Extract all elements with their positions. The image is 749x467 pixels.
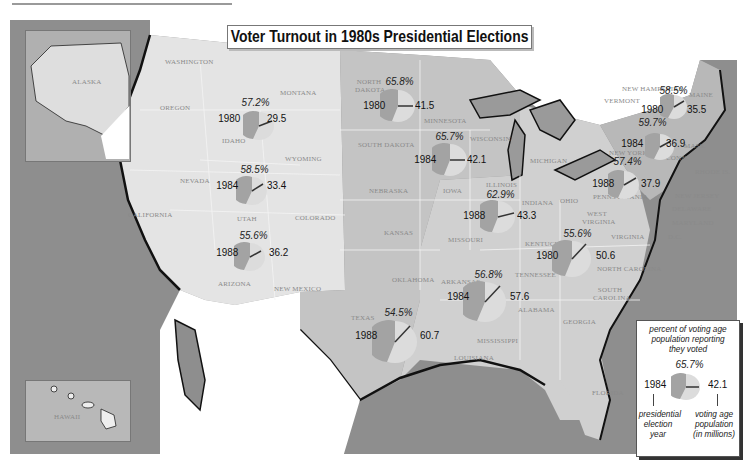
percent-label: 55.6% — [564, 227, 592, 239]
legend-population-label: voting age population (in millions) — [693, 409, 735, 439]
state-label: INDIANA — [522, 199, 553, 207]
population-label: 35.5 — [687, 103, 706, 115]
state-label: MONTANA — [280, 89, 317, 97]
year-label: 1980 — [536, 249, 558, 261]
state-label: LOUISIANA — [454, 354, 494, 362]
state-label: IOWA — [443, 187, 462, 195]
state-label: MICHIGAN — [530, 157, 567, 165]
state-label: KANSAS — [384, 229, 413, 237]
state-label: RHODE IS. — [695, 168, 731, 176]
state-label: VIRGINIA — [611, 233, 644, 241]
population-label: 50.6 — [596, 249, 615, 261]
state-label: D.C. — [668, 233, 682, 241]
pie-chart-west-1984 — [236, 174, 268, 206]
year-label: 1984 — [216, 179, 238, 191]
percent-label: 57.4% — [614, 155, 642, 167]
state-label: MISSISSIPPI — [477, 337, 518, 345]
state-label: SOUTH CAROLINA — [593, 286, 627, 302]
state-label: OREGON — [160, 104, 190, 112]
pie-chart-enc-1988 — [480, 198, 516, 234]
state-label: NORTH DAKOTA — [355, 78, 383, 94]
map-title-box: Voter Turnout in 1980s Presidential Elec… — [227, 25, 532, 49]
population-label: 36.2 — [269, 246, 288, 258]
year-label: 1988 — [592, 177, 614, 189]
pie-chart-wnc-1980 — [380, 87, 416, 123]
legend-sample-pie — [671, 371, 701, 401]
year-label: 1980 — [218, 112, 240, 124]
year-label: 1988 — [463, 209, 485, 221]
state-label: ALABAMA — [518, 306, 555, 314]
year-label: 1984 — [447, 290, 469, 302]
percent-label: 58.5% — [241, 163, 269, 175]
percent-label: 58.5% — [660, 84, 688, 96]
percent-label: 57.2% — [242, 96, 270, 108]
state-label: NEW MEXICO — [274, 285, 321, 293]
pie-chart-west-1988 — [234, 240, 266, 272]
state-label-hawaii: HAWAII — [54, 413, 80, 421]
legend-year-arrow — [653, 394, 654, 406]
state-label: NEW JERSEY — [675, 192, 719, 200]
population-label: 43.3 — [517, 209, 536, 221]
population-label: 41.5 — [415, 99, 434, 111]
state-label: MAINE — [689, 91, 713, 99]
population-label: 60.7 — [420, 329, 439, 341]
state-label: CALIFORNIA — [128, 211, 172, 219]
alaska-shape — [26, 31, 130, 161]
legend-sample-percent: 65.7% — [676, 358, 704, 370]
percent-label: 54.5% — [385, 306, 413, 318]
page-title: Voter Turnout in 1980s Presidential Elec… — [231, 27, 529, 47]
state-label: GEORGIA — [563, 318, 596, 326]
state-label: MINNESOTA — [424, 117, 466, 125]
year-label: 1980 — [363, 99, 385, 111]
state-label: SOUTH DAKOTA — [358, 141, 414, 149]
year-label: 1980 — [641, 103, 663, 115]
year-label: 1988 — [216, 246, 238, 258]
legend-sample-year: 1984 — [644, 378, 666, 390]
state-label: DELAWARE — [672, 205, 712, 213]
state-label: MARYLAND — [672, 219, 714, 227]
legend-year-label: presidential election year — [639, 409, 678, 439]
state-label: WISCONSIN — [470, 135, 511, 143]
population-label: 29.5 — [267, 112, 286, 124]
year-label: 1984 — [414, 153, 436, 165]
percent-label: 55.6% — [240, 229, 268, 241]
state-label: VERMONT — [604, 97, 640, 105]
population-label: 42.1 — [467, 153, 486, 165]
pie-chart-south-central-1988 — [372, 318, 418, 364]
legend-top-label: percent of voting age population reporti… — [645, 324, 731, 354]
state-label: WEST VIRGINIA — [582, 210, 612, 226]
state-label: MASS. — [684, 142, 706, 150]
percent-label: 56.8% — [475, 268, 503, 280]
alaska-inset — [25, 30, 131, 162]
state-label: MISSOURI — [448, 236, 483, 244]
year-label: 1984 — [621, 137, 643, 149]
percent-label: 65.8% — [386, 75, 414, 87]
hawaii-shape — [26, 381, 130, 441]
pie-chart-south-central-1984 — [463, 279, 507, 323]
state-label: WYOMING — [285, 155, 322, 163]
percent-label: 62.9% — [487, 188, 515, 200]
pie-chart-wnc-1984 — [432, 141, 468, 177]
state-label: ARIZONA — [218, 280, 251, 288]
state-label: NEBRASKA — [369, 187, 408, 195]
population-label: 37.9 — [641, 177, 660, 189]
legend-box: percent of voting age population reporti… — [636, 320, 740, 457]
percent-label: 65.7% — [436, 130, 464, 142]
state-label: OHIO — [560, 197, 578, 205]
state-label-alaska: ALASKA — [72, 78, 102, 86]
state-label: OKLAHOMA — [392, 276, 434, 284]
state-label: COLORADO — [295, 214, 336, 222]
hawaii-inset — [25, 380, 131, 442]
legend-sample-population: 42.1 — [708, 378, 727, 390]
percent-label: 59.7% — [639, 116, 667, 128]
state-label: TENNESSEE — [515, 271, 556, 279]
state-label: WASHINGTON — [165, 58, 214, 66]
state-label: UTAH — [237, 215, 257, 223]
population-label: 33.4 — [267, 179, 286, 191]
state-label: FLORIDA — [592, 389, 624, 397]
state-label: NEVADA — [180, 177, 210, 185]
population-label: 36.9 — [666, 137, 685, 149]
year-label: 1988 — [355, 329, 377, 341]
state-label: NORTH CAROLINA — [597, 265, 661, 273]
population-label: 57.6 — [510, 290, 529, 302]
